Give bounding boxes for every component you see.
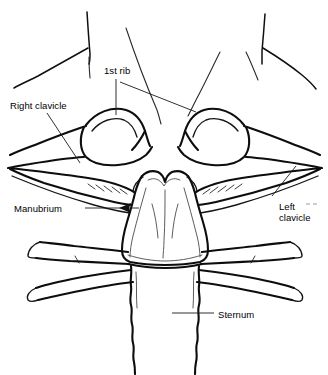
label-sternum: Sternum [218, 309, 254, 320]
anatomy-figure: 1st rib Right clavicle Manubrium Leftcla… [0, 0, 328, 375]
right-second-rib-inferior [36, 258, 129, 264]
label-right-clavicle: Right clavicle [10, 100, 67, 111]
left-third-rib-inferior [197, 282, 292, 300]
label-first-rib: 1st rib [104, 65, 130, 76]
right-clavicle-lateral-shaft-lower [8, 157, 84, 168]
sternal-body-left-inner [136, 272, 137, 308]
center-left-soft-tissue-line [126, 28, 161, 124]
label-manubrium: Manubrium [14, 203, 62, 214]
manubrium-group [122, 171, 208, 265]
label-left-clavicle-line1: Left [279, 201, 295, 212]
center-right-soft-tissue-line [188, 52, 220, 116]
sternal-body-right-inner [193, 272, 194, 308]
right-neck-outline-tail [246, 52, 258, 80]
left-clavicle-inner-contour [193, 119, 238, 137]
left-second-rib-superior [202, 242, 290, 252]
leader-first-rib-diagonal [120, 82, 196, 112]
left-clavicle-inferior-border [178, 127, 249, 165]
left-third-rib-lateral-tip [292, 288, 303, 302]
left-clavicle-lateral-shaft-lower [246, 157, 322, 168]
left-clavicle-sternal-end [185, 131, 198, 150]
right-second-rib-lateral-tip [28, 242, 40, 258]
sternal-body-group [128, 264, 202, 374]
anatomy-line-drawing [0, 0, 328, 375]
left-neck-outline-vertical [87, 12, 90, 64]
right-clavicle-lateral-shaft-upper [10, 126, 86, 155]
label-left-clavicle: Leftclavicle [279, 201, 311, 223]
right-shoulder-outline [263, 48, 316, 89]
right-third-rib-inferior [38, 282, 133, 300]
right-clavicle-inferior-border [81, 127, 152, 165]
left-shoulder-outline [14, 48, 88, 88]
right-clavicle-inner-contour [92, 119, 137, 137]
label-left-clavicle-line2: clavicle [279, 212, 311, 223]
right-third-rib-lateral-tip [27, 288, 38, 302]
right-second-rib-superior [40, 242, 128, 252]
right-clavicle-sternal-end [132, 131, 145, 150]
clavicles-group [8, 109, 322, 168]
right-neck-outline-vertical [262, 14, 265, 64]
left-second-rib-inferior [201, 258, 294, 264]
left-clavicle-lateral-shaft-upper [244, 126, 320, 155]
left-second-rib-lateral-tip [290, 242, 302, 258]
